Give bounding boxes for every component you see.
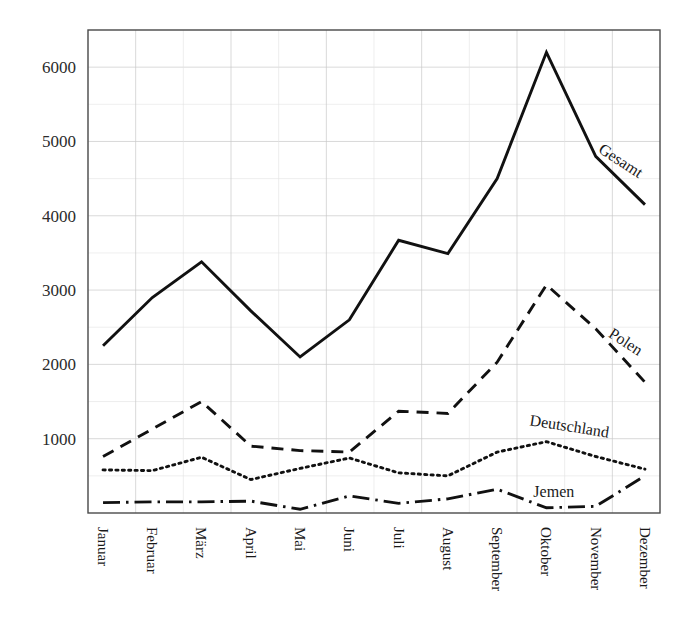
x-axis-tick-label: März [193, 527, 209, 559]
y-axis-tick-label: 2000 [42, 355, 76, 374]
y-axis-tick-label: 3000 [42, 281, 76, 300]
x-axis-tick-label: Mai [292, 527, 308, 551]
x-axis-tick-label: Oktober [538, 527, 554, 576]
x-axis-tick-label: Dezember [637, 527, 653, 589]
x-axis-tick-label: Juli [391, 527, 407, 549]
chart-container: 100020003000400050006000 JanuarFebruarMä… [0, 0, 693, 619]
series-label-jemen: Jemen [533, 483, 574, 500]
y-axis-tick-label: 1000 [42, 430, 76, 449]
x-axis-tick-label: November [588, 527, 604, 590]
x-axis-tick-label: Februar [144, 527, 160, 574]
x-axis-tick-label: April [243, 527, 259, 559]
y-axis-tick-label: 4000 [42, 207, 76, 226]
line-chart: 100020003000400050006000 JanuarFebruarMä… [0, 0, 693, 619]
x-axis-tick-label: September [489, 527, 505, 591]
y-axis-tick-label: 5000 [42, 132, 76, 151]
x-axis-tick-label: Juni [341, 527, 357, 552]
x-axis-tick-label: August [440, 527, 456, 571]
x-axis-tick-label: Januar [95, 527, 111, 566]
y-axis-tick-label: 6000 [42, 58, 76, 77]
